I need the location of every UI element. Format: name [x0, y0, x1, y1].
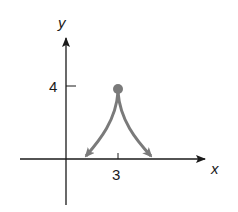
graph: y x 3 4: [0, 0, 238, 212]
curve-right-branch: [118, 92, 151, 156]
y-tick-label: 4: [49, 78, 57, 95]
x-tick-label: 3: [112, 166, 120, 183]
y-axis-label: y: [57, 14, 67, 31]
x-axis-label: x: [210, 160, 219, 177]
point-marker: [113, 84, 123, 94]
curve-left-branch: [86, 92, 118, 156]
